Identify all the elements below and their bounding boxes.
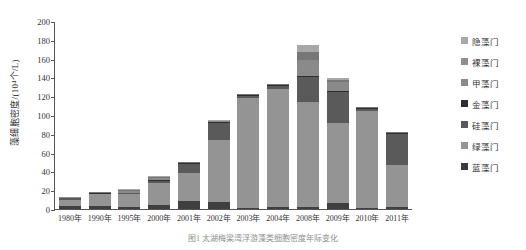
x-tick-label: 2003年: [234, 212, 264, 223]
x-tick-label: 2001年: [174, 212, 204, 223]
x-axis-line: [54, 209, 412, 210]
y-tick-label: 20: [24, 186, 50, 196]
bar-segment[interactable]: [297, 60, 319, 77]
y-tick-label: 140: [24, 73, 50, 83]
bar-segment[interactable]: [356, 208, 378, 209]
x-tick-label: 2010年: [353, 212, 383, 223]
legend-label: 绿藻门: [472, 140, 499, 152]
x-tick-label: 2009年: [323, 212, 353, 223]
y-tick-label: 40: [24, 167, 50, 177]
x-tick-label: 2004年: [263, 212, 293, 223]
legend-label: 隐藻门: [472, 35, 499, 47]
y-tick-label: 80: [24, 130, 50, 140]
plot-area: 020406080100120140160180200: [54, 22, 412, 210]
bar-segment[interactable]: [208, 202, 230, 209]
x-tick-label: 1995年: [115, 212, 145, 223]
bar-segment[interactable]: [178, 164, 200, 173]
legend-swatch-icon: [461, 121, 468, 128]
bar-segment[interactable]: [89, 206, 111, 209]
bar-stack[interactable]: [297, 45, 319, 209]
bar-segment[interactable]: [59, 206, 81, 209]
y-tick-label: 100: [24, 111, 50, 121]
bar-segment[interactable]: [386, 207, 408, 209]
x-tick-label: 1990年: [85, 212, 115, 223]
y-tick-label: 200: [24, 17, 50, 27]
bar-segment[interactable]: [208, 140, 230, 202]
legend-swatch-icon: [461, 142, 468, 149]
x-tick-label: 1980年: [55, 212, 85, 223]
legend-swatch-icon: [461, 79, 468, 86]
y-tick-label: 120: [24, 92, 50, 102]
legend-swatch-icon: [461, 37, 468, 44]
bar-segment[interactable]: [327, 82, 349, 90]
legend-swatch-icon: [461, 163, 468, 170]
bar-segment[interactable]: [327, 123, 349, 204]
bar-segment[interactable]: [267, 89, 289, 207]
bar-segment[interactable]: [386, 165, 408, 207]
bar-segment[interactable]: [118, 207, 140, 209]
bar-segment[interactable]: [327, 92, 349, 123]
bar-stack[interactable]: [89, 192, 111, 209]
bar-segment[interactable]: [327, 203, 349, 209]
bar-stack[interactable]: [237, 94, 259, 209]
legend-swatch-icon: [461, 58, 468, 65]
bar-stack[interactable]: [327, 78, 349, 209]
y-tick-label: 160: [24, 55, 50, 65]
bar-stack[interactable]: [356, 107, 378, 209]
x-tick-label: 2002年: [204, 212, 234, 223]
bar-stack[interactable]: [386, 132, 408, 209]
legend-item[interactable]: 裸藻门: [461, 51, 523, 72]
legend-label: 金藻门: [472, 98, 499, 110]
bar-group: [55, 22, 412, 209]
chart-legend: 隐藻门裸藻门甲藻门金藻门硅藻门绿藻门蓝藻门: [461, 30, 523, 177]
y-axis-title: 藻细胞密度/(10⁴个/L): [8, 23, 21, 183]
bar-segment[interactable]: [89, 194, 111, 205]
bar-segment[interactable]: [237, 208, 259, 209]
legend-label: 甲藻门: [472, 77, 499, 89]
x-tick-label: 2000年: [144, 212, 174, 223]
x-tick-label: 2008年: [293, 212, 323, 223]
x-axis-labels: 1980年1990年1995年2000年2001年2002年2003年2004年…: [55, 212, 412, 223]
figure-caption: 图1 太湖梅梁湾浮游藻类细胞密度年际变化: [0, 232, 526, 243]
legend-item[interactable]: 绿藻门: [461, 135, 523, 156]
bar-segment[interactable]: [178, 201, 200, 209]
legend-item[interactable]: 甲藻门: [461, 72, 523, 93]
y-tick-label: 60: [24, 149, 50, 159]
legend-item[interactable]: 金藻门: [461, 93, 523, 114]
bar-stack[interactable]: [208, 120, 230, 209]
bar-stack[interactable]: [59, 197, 81, 209]
x-tick-label: 2011年: [382, 212, 412, 223]
y-tick-label: 180: [24, 36, 50, 46]
bar-segment[interactable]: [356, 111, 378, 208]
y-tick-mark: [51, 210, 55, 211]
bar-stack[interactable]: [118, 189, 140, 209]
bar-stack[interactable]: [148, 176, 170, 209]
bar-segment[interactable]: [297, 52, 319, 60]
bar-segment[interactable]: [148, 183, 170, 206]
legend-label: 硅藻门: [472, 119, 499, 131]
bar-segment[interactable]: [148, 205, 170, 209]
legend-label: 裸藻门: [472, 56, 499, 68]
y-tick-label: 0: [24, 205, 50, 215]
bar-segment[interactable]: [267, 207, 289, 209]
bar-segment[interactable]: [178, 173, 200, 200]
bar-segment[interactable]: [237, 98, 259, 208]
legend-swatch-icon: [461, 100, 468, 107]
legend-item[interactable]: 隐藻门: [461, 30, 523, 51]
legend-label: 蓝藻门: [472, 161, 499, 173]
bar-segment[interactable]: [386, 134, 408, 165]
bar-stack[interactable]: [267, 84, 289, 209]
legend-item[interactable]: 蓝藻门: [461, 156, 523, 177]
bar-segment[interactable]: [297, 77, 319, 101]
bar-segment[interactable]: [208, 123, 230, 141]
chart-figure: 藻细胞密度/(10⁴个/L) 0204060801001201401601802…: [0, 0, 526, 250]
bar-segment[interactable]: [118, 194, 140, 206]
bar-segment[interactable]: [297, 102, 319, 207]
bar-segment[interactable]: [297, 207, 319, 209]
legend-item[interactable]: 硅藻门: [461, 114, 523, 135]
bar-stack[interactable]: [178, 162, 200, 209]
bar-segment[interactable]: [297, 45, 319, 53]
